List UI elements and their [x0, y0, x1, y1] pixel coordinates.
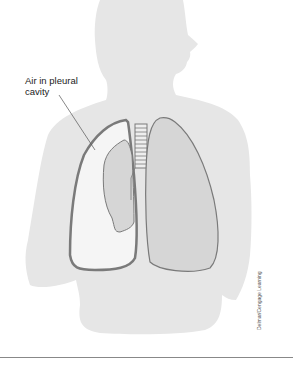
- air-in-pleural-cavity-label: Air in pleural cavity: [25, 75, 78, 97]
- image-credit: Delmar/Cengage Learning: [256, 271, 262, 330]
- torso-diagram: [0, 0, 293, 365]
- diagram-figure: Air in pleural cavity Delmar/Cengage Lea…: [0, 0, 293, 365]
- label-line-1: Air in pleural: [25, 75, 78, 86]
- label-line-2: cavity: [25, 86, 78, 97]
- bottom-divider: [0, 357, 293, 358]
